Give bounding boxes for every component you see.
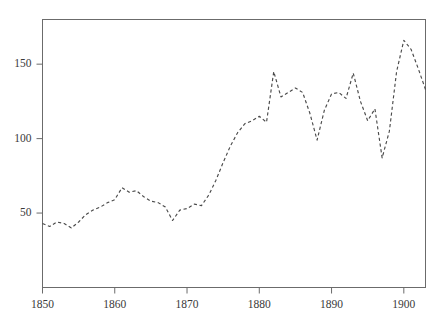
y-tick-label: 150 <box>14 57 32 69</box>
chart-container: 50100150 185018601870188018901900 <box>0 0 441 326</box>
x-tick-label: 1860 <box>103 298 126 310</box>
x-tick-label: 1900 <box>392 298 415 310</box>
x-tick-label: 1850 <box>31 298 54 310</box>
line-chart: 50100150 185018601870188018901900 <box>0 0 441 326</box>
y-tick-label: 50 <box>20 206 32 218</box>
chart-background <box>0 0 441 326</box>
x-tick-label: 1880 <box>248 298 271 310</box>
x-tick-label: 1870 <box>176 298 199 310</box>
x-tick-label: 1890 <box>320 298 343 310</box>
y-tick-label: 100 <box>14 132 32 144</box>
